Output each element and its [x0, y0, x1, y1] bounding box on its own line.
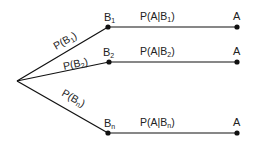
edge-label-pb2: P(B2)	[62, 55, 89, 73]
node-b1	[105, 24, 110, 29]
cond-label-2: P(A|B2)	[140, 45, 175, 58]
label-b2: B2	[103, 46, 114, 59]
node-a2	[234, 59, 239, 64]
node-a1	[234, 24, 239, 29]
label-an: A	[233, 116, 241, 128]
cond-label-1: P(A|B1)	[140, 10, 175, 23]
label-a2: A	[233, 45, 241, 57]
edge-root-bn	[17, 81, 108, 133]
edge-label-pbn: P(Bn)	[60, 86, 88, 110]
label-a1: A	[233, 10, 241, 22]
probability-tree-diagram: B1 B2 Bn P(B1) P(B2) P(Bn) P(A|B1) P(A|B…	[0, 0, 257, 143]
label-bn: Bn	[104, 117, 115, 130]
node-an	[234, 130, 239, 135]
edge-label-pb1: P(B1)	[51, 29, 79, 53]
node-bn	[105, 130, 110, 135]
node-b2	[106, 59, 111, 64]
label-b1: B1	[104, 11, 115, 24]
cond-label-n: P(A|Bn)	[140, 116, 175, 129]
